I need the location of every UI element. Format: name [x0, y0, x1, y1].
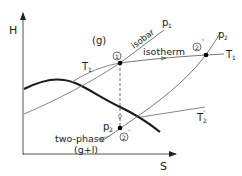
point-1 [118, 61, 123, 66]
t2-double-prime-label: T 2 ″ [196, 109, 207, 124]
liquid-line [24, 63, 120, 114]
point-1-label: 1 [113, 52, 121, 60]
svg-text:2: 2 [122, 134, 126, 141]
y-axis-label: H [9, 24, 17, 37]
svg-text:″: ″ [129, 128, 132, 135]
t1-left-label: T 1 [81, 61, 92, 73]
point-2-prime [204, 53, 209, 58]
svg-text:1: 1 [115, 53, 119, 60]
svg-text:2: 2 [203, 117, 207, 124]
point-2-double-prime [118, 126, 123, 131]
svg-text:1: 1 [232, 54, 236, 61]
isotherm-label: isotherm [143, 46, 185, 57]
point-2-prime-label: 2 ' [193, 38, 204, 51]
t1-right-label: T 1 [225, 49, 236, 61]
two-phase-sub-label: (g+l) [74, 144, 98, 155]
svg-text:1: 1 [88, 66, 92, 73]
saturation-dome-curve [24, 79, 160, 132]
t2-double-prime-line [141, 107, 205, 117]
svg-text:1: 1 [168, 22, 172, 29]
x-axis-label: S [160, 160, 167, 173]
p2-bottom-label: p 2 [103, 121, 113, 133]
t1-isotherm-curve [72, 63, 120, 82]
gas-region-label: (g) [92, 35, 106, 46]
p1-label: p 1 [162, 17, 172, 29]
svg-text:2: 2 [195, 44, 199, 51]
svg-text:″: ″ [203, 109, 206, 116]
two-phase-label: two-phase [55, 133, 105, 144]
svg-text:': ' [202, 38, 204, 46]
hs-diagram: H S 1 2 ' 2 ″ (g) two-phase (g+l) isobar [0, 0, 242, 176]
p2-top-label: p 2 [218, 29, 228, 41]
point-2-double-prime-label: 2 ″ [120, 128, 132, 142]
svg-text:2: 2 [109, 126, 113, 133]
svg-text:2: 2 [224, 34, 228, 41]
